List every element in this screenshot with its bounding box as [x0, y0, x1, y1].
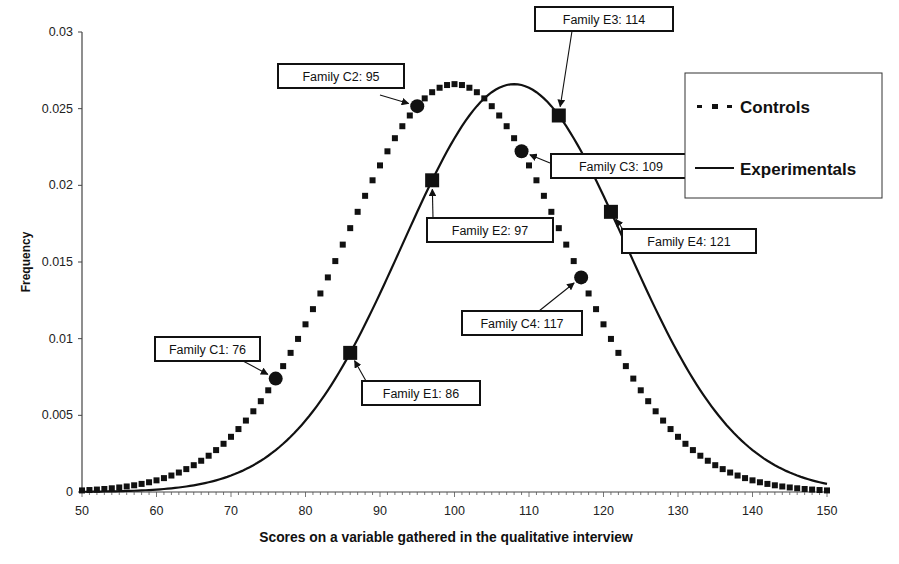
annotation-label: Family E2: 97	[452, 224, 528, 238]
annotation-label: Family E3: 114	[563, 13, 645, 27]
legend-label-controls: Controls	[740, 98, 810, 117]
x-axis-title: Scores on a variable gathered in the qua…	[259, 529, 633, 545]
annotation-label: Family E4: 121	[647, 235, 730, 249]
x-tick-label: 140	[742, 504, 763, 518]
x-tick-label: 70	[224, 504, 238, 518]
annotation-label: Family E1: 86	[383, 387, 459, 401]
y-axis-title: Frequency	[19, 231, 33, 292]
y-tick-label: 0.03	[49, 25, 73, 39]
y-tick-label: 0.02	[49, 178, 73, 192]
square-marker-icon	[552, 108, 566, 122]
arrow-icon	[432, 189, 433, 218]
annotation-label: Family C2: 95	[302, 70, 379, 84]
square-marker-icon	[425, 173, 439, 187]
x-tick-label: 90	[373, 504, 387, 518]
x-tick-label: 60	[150, 504, 164, 518]
legend-label-experimentals: Experimentals	[740, 160, 856, 179]
x-tick-label: 120	[593, 504, 614, 518]
y-tick-label: 0.015	[42, 255, 73, 269]
x-tick-label: 50	[75, 504, 89, 518]
circle-marker-icon	[410, 99, 424, 113]
circle-marker-icon	[574, 270, 588, 284]
square-marker-icon	[343, 346, 357, 360]
circle-marker-icon	[269, 372, 283, 386]
x-tick-label: 130	[668, 504, 689, 518]
square-marker-icon	[604, 205, 618, 219]
y-tick-label: 0.01	[49, 332, 73, 346]
x-tick-label: 110	[519, 504, 539, 518]
legend: Controls Experimentals	[685, 73, 882, 198]
x-tick-label: 100	[444, 504, 465, 518]
y-tick-label: 0	[66, 485, 73, 499]
legend-box	[685, 73, 882, 198]
annotation-label: Family C3: 109	[579, 160, 663, 174]
x-tick-label: 150	[817, 504, 838, 518]
annotation-label: Family C4: 117	[480, 317, 563, 331]
circle-marker-icon	[515, 144, 529, 158]
x-tick-label: 80	[299, 504, 313, 518]
annotation-label: Family C1: 76	[169, 343, 246, 357]
y-tick-label: 0.005	[42, 408, 73, 422]
y-tick-label: 0.025	[42, 102, 73, 116]
frequency-chart: 00.0050.010.0150.020.0250.03 50607080901…	[0, 0, 899, 564]
